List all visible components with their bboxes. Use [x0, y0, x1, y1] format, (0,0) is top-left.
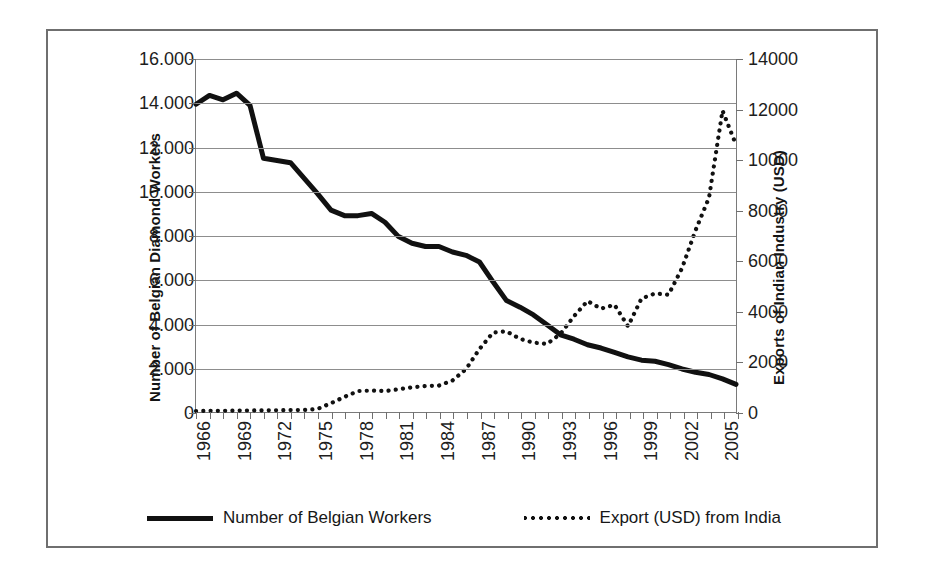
x-axis-tick — [508, 412, 509, 419]
x-axis-tick-label: 1981 — [398, 421, 416, 461]
left-axis-tick — [189, 236, 196, 237]
legend-item[interactable]: Export (USD) from India — [524, 508, 781, 528]
chart-legend: Number of Belgian WorkersExport (USD) fr… — [108, 501, 820, 535]
axis-tick-label: 10000 — [748, 151, 798, 169]
x-axis-tick-label: 1975 — [317, 421, 335, 461]
x-axis-tick — [562, 412, 563, 419]
legend-label: Export (USD) from India — [600, 508, 781, 528]
x-axis-tick — [332, 412, 333, 419]
right-axis-tick — [736, 160, 743, 161]
x-axis-tick-label: 1972 — [276, 421, 294, 461]
chart-frame: Number of Belgian Diamond Workers Export… — [46, 29, 878, 548]
x-axis-tick-label: 1987 — [480, 421, 498, 461]
x-axis-tick — [237, 412, 238, 419]
axis-tick-label: 10.000 — [139, 183, 194, 201]
axis-tick-label: 12.000 — [139, 139, 194, 157]
x-axis-tick — [345, 412, 346, 419]
x-axis-tick — [223, 412, 224, 419]
axis-tick-label: 12000 — [748, 101, 798, 119]
x-axis-tick — [589, 412, 590, 419]
left-axis-tick — [189, 413, 196, 414]
axis-tick-label: 6000 — [748, 252, 788, 270]
x-axis-tick — [250, 412, 251, 419]
gridline — [196, 148, 736, 149]
legend-solid-line-icon — [147, 516, 213, 521]
x-axis-tick — [318, 412, 319, 419]
axis-tick-label: 14000 — [748, 50, 798, 68]
plot-area — [195, 59, 737, 413]
x-axis-tick — [603, 412, 604, 419]
legend-item[interactable]: Number of Belgian Workers — [147, 508, 432, 528]
chart-screenshot: Number of Belgian Diamond Workers Export… — [0, 0, 926, 579]
x-axis-tick — [453, 412, 454, 419]
gridline — [196, 236, 736, 237]
x-axis-tick — [521, 412, 522, 419]
right-axis-tick — [736, 312, 743, 313]
x-axis-tick — [210, 412, 211, 419]
x-axis-tick — [711, 412, 712, 419]
x-axis-tick — [264, 412, 265, 419]
x-axis-tick — [399, 412, 400, 419]
gridline — [196, 369, 736, 370]
x-axis-tick — [291, 412, 292, 419]
x-axis-tick — [359, 412, 360, 419]
x-axis-tick — [684, 412, 685, 419]
x-axis-tick — [386, 412, 387, 419]
series-line-belgian-workers — [196, 93, 736, 384]
x-axis-tick-label: 1996 — [602, 421, 620, 461]
x-axis-tick — [643, 412, 644, 419]
series-line-export-india — [196, 111, 736, 411]
x-axis-tick — [630, 412, 631, 419]
x-axis-tick — [277, 412, 278, 419]
x-axis-tick-label: 1966 — [195, 421, 213, 461]
right-axis-tick — [736, 211, 743, 212]
axis-tick-label: 2000 — [748, 353, 788, 371]
axis-tick-label: 6.000 — [149, 271, 194, 289]
x-axis-tick-label: 2005 — [723, 421, 741, 461]
right-axis-tick — [736, 362, 743, 363]
legend-dotted-line-icon — [524, 516, 590, 520]
x-axis-tick-label: 2002 — [683, 421, 701, 461]
axis-tick-label: 8.000 — [149, 227, 194, 245]
x-axis-tick — [575, 412, 576, 419]
x-axis-tick — [738, 412, 739, 419]
axis-tick-label: 4000 — [748, 303, 788, 321]
x-axis-tick-label: 1999 — [642, 421, 660, 461]
gridline — [196, 325, 736, 326]
x-axis-tick-label: 1978 — [358, 421, 376, 461]
x-axis-tick — [548, 412, 549, 419]
x-axis-tick — [196, 412, 197, 419]
x-axis-tick-label: 1990 — [520, 421, 538, 461]
x-axis-tick — [481, 412, 482, 419]
left-axis-tick — [189, 325, 196, 326]
x-axis-tick — [670, 412, 671, 419]
right-axis-tick — [736, 110, 743, 111]
gridline — [196, 192, 736, 193]
x-axis-tick-label: 1984 — [439, 421, 457, 461]
x-axis-tick — [657, 412, 658, 419]
x-axis-tick — [372, 412, 373, 419]
x-axis-tick — [494, 412, 495, 419]
x-axis-tick — [724, 412, 725, 419]
right-axis-tick — [736, 59, 743, 60]
axis-tick-label: 8000 — [748, 202, 788, 220]
x-axis-tick — [440, 412, 441, 419]
axis-tick-label: 0 — [748, 404, 758, 422]
left-axis-tick — [189, 103, 196, 104]
x-axis-tick — [697, 412, 698, 419]
axis-tick-label: 16.000 — [139, 50, 194, 68]
x-axis-tick — [413, 412, 414, 419]
legend-label: Number of Belgian Workers — [223, 508, 432, 528]
left-axis-tick — [189, 369, 196, 370]
gridline — [196, 59, 736, 60]
right-axis-tick — [736, 261, 743, 262]
left-axis-tick — [189, 280, 196, 281]
axis-tick-label: 14.000 — [139, 94, 194, 112]
x-axis-tick-label: 1969 — [236, 421, 254, 461]
x-axis-tick — [467, 412, 468, 419]
gridline — [196, 280, 736, 281]
x-axis-tick — [426, 412, 427, 419]
x-axis-tick — [616, 412, 617, 419]
left-axis-tick — [189, 192, 196, 193]
x-axis-tick-label: 1993 — [561, 421, 579, 461]
